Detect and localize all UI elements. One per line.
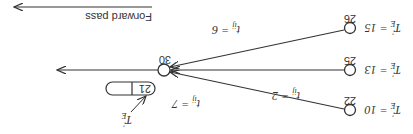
te-label-26: T′E = 15 <box>365 19 401 36</box>
forward-pass-diagram: Forward pass 22 25 26 T′E = 10 T′E = 13 … <box>0 0 413 134</box>
node-25-id: 25 <box>344 55 356 67</box>
node-22-id: 22 <box>344 95 356 107</box>
result-box-value: 21 <box>139 83 151 95</box>
result-pointer-label: T′E <box>122 111 132 128</box>
edge-label-22: tij = 7 <box>171 95 200 111</box>
node-30-id: 30 <box>159 54 171 66</box>
result-pointer-arrow <box>131 96 146 112</box>
edge-26-30 <box>170 30 344 67</box>
node-26-id: 26 <box>344 13 356 25</box>
forward-pass-label: Forward pass <box>85 11 152 23</box>
edge-label-26: tij = 6 <box>212 21 240 37</box>
edge-label-25: tij = 2 <box>272 87 300 103</box>
te-label-25: T′E = 13 <box>365 61 401 78</box>
te-label-22: T′E = 10 <box>365 101 401 118</box>
